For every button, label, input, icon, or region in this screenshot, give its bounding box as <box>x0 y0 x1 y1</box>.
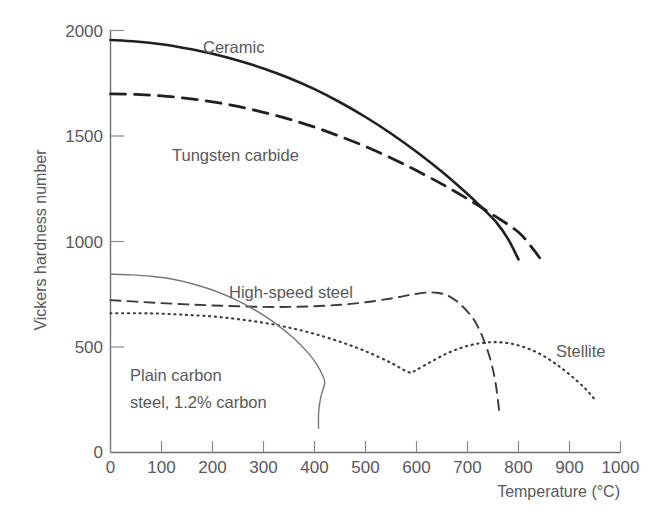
x-tick-label-800: 800 <box>504 458 532 477</box>
x-tick-label-300: 300 <box>249 458 277 477</box>
ceramic-label: Ceramic <box>203 38 264 56</box>
x-tick-label-1000: 1000 <box>602 458 640 477</box>
x-tick-label-200: 200 <box>198 458 226 477</box>
x-axis-ticks <box>111 441 621 453</box>
y-tick-label-0: 0 <box>94 443 103 462</box>
x-tick-label-0: 0 <box>106 458 115 477</box>
y-tick-label-2000: 2000 <box>65 22 103 41</box>
curve-tungsten-carbide <box>111 94 542 261</box>
series-annotations: Ceramic Tungsten carbide High-speed stee… <box>130 38 606 411</box>
y-tick-label-500: 500 <box>75 338 103 357</box>
stellite-label: Stellite <box>556 342 606 360</box>
x-tick-label-100: 100 <box>147 458 175 477</box>
x-tick-label-900: 900 <box>555 458 583 477</box>
tungsten-carbide-label: Tungsten carbide <box>172 146 299 164</box>
x-tick-label-700: 700 <box>453 458 481 477</box>
plain-carbon-steel-label-line2: steel, 1.2% carbon <box>130 393 267 411</box>
y-tick-label-1500: 1500 <box>65 127 103 146</box>
x-axis-title: Temperature (°C) <box>497 483 620 500</box>
axes-group <box>111 30 621 453</box>
high-speed-steel-label: High-speed steel <box>229 283 353 301</box>
y-axis-tick-labels: 2000 1500 1000 500 0 <box>65 22 103 462</box>
x-axis-tick-labels: 0 100 200 300 400 500 600 700 800 900 10… <box>106 458 640 477</box>
y-tick-label-1000: 1000 <box>65 233 103 252</box>
chart-figure: 2000 1500 1000 500 0 0 100 200 300 40 <box>0 0 662 524</box>
hardness-vs-temperature-chart: 2000 1500 1000 500 0 0 100 200 300 40 <box>0 0 662 524</box>
x-tick-label-500: 500 <box>351 458 379 477</box>
plain-carbon-steel-label-line1: Plain carbon <box>130 366 222 384</box>
x-tick-label-400: 400 <box>300 458 328 477</box>
x-tick-label-600: 600 <box>402 458 430 477</box>
y-axis-title: Vickers hardness number <box>32 149 49 331</box>
curve-stellite <box>111 313 596 400</box>
